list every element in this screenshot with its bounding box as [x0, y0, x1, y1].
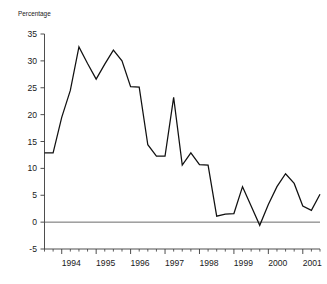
x-tick-label: 2000 [268, 258, 287, 268]
y-axis-title: Percentage [18, 10, 51, 18]
line-chart: Percentage -505101520253035 199419951996… [0, 0, 327, 284]
x-tick-label: 1997 [165, 258, 184, 268]
x-tick-label: 2001 [303, 258, 322, 268]
x-tick-label: 1995 [96, 258, 115, 268]
y-axis-ticks: -505101520253035 [27, 29, 44, 254]
y-tick-label: 20 [27, 110, 37, 120]
x-tick-label: 1996 [131, 258, 150, 268]
y-tick-label: 10 [27, 163, 37, 173]
data-series-line [45, 47, 321, 225]
y-tick-label: 30 [27, 56, 37, 66]
y-tick-label: 15 [27, 137, 37, 147]
x-tick-label: 1998 [199, 258, 218, 268]
y-tick-label: 25 [27, 83, 37, 93]
y-tick-label: -5 [29, 244, 37, 254]
x-axis-ticks: 19941995199619971998199920002001 [62, 249, 322, 268]
y-tick-label: 35 [27, 29, 37, 39]
y-axis-title-group: Percentage [18, 10, 51, 18]
figure-container: Percentage -505101520253035 199419951996… [0, 0, 327, 284]
x-tick-label: 1999 [234, 258, 253, 268]
y-tick-label: 5 [32, 190, 37, 200]
y-tick-label: 0 [32, 217, 37, 227]
x-tick-label: 1994 [62, 258, 81, 268]
